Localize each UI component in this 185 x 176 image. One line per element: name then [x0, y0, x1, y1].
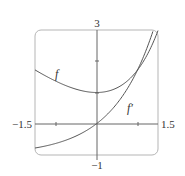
x-max-label: 1.5: [161, 118, 175, 130]
chart: 3 −1 −1.5 1.5 f f′: [0, 0, 185, 176]
x-min-label: −1.5: [12, 118, 32, 130]
y-min-label: −1: [91, 159, 103, 171]
fprime-curve-label: f′: [127, 101, 133, 115]
fprime-curve: [35, 31, 153, 148]
f-curve-label: f: [55, 67, 60, 81]
y-max-label: 3: [94, 17, 100, 29]
